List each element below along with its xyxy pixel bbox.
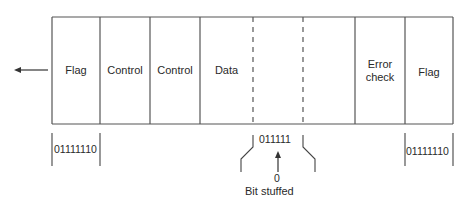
field-control-1: Control: [100, 64, 150, 77]
field-error-check-line1: Error: [355, 58, 405, 71]
start-flag-bits: 01111110: [54, 143, 97, 155]
data-bits: 011111: [259, 133, 291, 145]
field-data: Data: [200, 64, 253, 77]
left-arrow-icon: [14, 67, 48, 73]
frame-diagram: [0, 0, 460, 199]
field-error-check-line2: check: [355, 71, 405, 84]
field-control-2: Control: [150, 64, 200, 77]
field-flag-start: Flag: [52, 64, 100, 77]
field-flag-end: Flag: [405, 66, 453, 79]
stuffed-bit-arrow-icon: [275, 151, 281, 172]
stuffed-label: Bit stuffed: [245, 185, 294, 197]
field-error-check: Error check: [355, 58, 405, 84]
stuffed-bit: 0: [274, 172, 280, 184]
end-flag-bits: 01111110: [406, 145, 449, 157]
